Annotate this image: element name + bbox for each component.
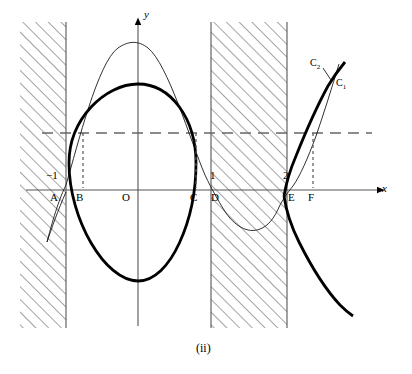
point-label-b: B	[76, 192, 83, 203]
y-axis-label: y	[144, 9, 149, 20]
figure-container: −1 1 2 A B O C D E F x y C2 C1 (ii)	[0, 0, 412, 374]
point-label-o: O	[122, 192, 130, 203]
tick-label-minus-one: −1	[46, 170, 58, 181]
curve-label-leaders	[323, 68, 331, 80]
tick-label-one: 1	[210, 170, 216, 181]
figure-graphic	[0, 0, 412, 374]
hatched-region-left	[20, 22, 66, 328]
tick-label-two: 2	[283, 170, 289, 181]
point-label-f: F	[308, 192, 314, 203]
curve-c1-oval	[69, 84, 196, 281]
curve-label-c1-sub: 1	[343, 83, 347, 91]
curve-label-c2-sub: 2	[317, 63, 321, 71]
leader-c2	[323, 68, 331, 80]
curve-label-c1: C1	[336, 78, 346, 91]
point-label-e: E	[288, 192, 295, 203]
curve-label-c2: C2	[310, 58, 320, 71]
point-label-c: C	[190, 192, 197, 203]
point-label-a: A	[50, 192, 58, 203]
x-axis-label: x	[382, 183, 387, 194]
curve-label-c2-base: C	[310, 57, 317, 68]
figure-caption: (ii)	[196, 342, 211, 354]
curve-c1-right-lower	[284, 196, 353, 316]
curve-label-c1-base: C	[336, 77, 343, 88]
hatched-region-right	[211, 22, 287, 328]
point-label-d: D	[211, 192, 219, 203]
